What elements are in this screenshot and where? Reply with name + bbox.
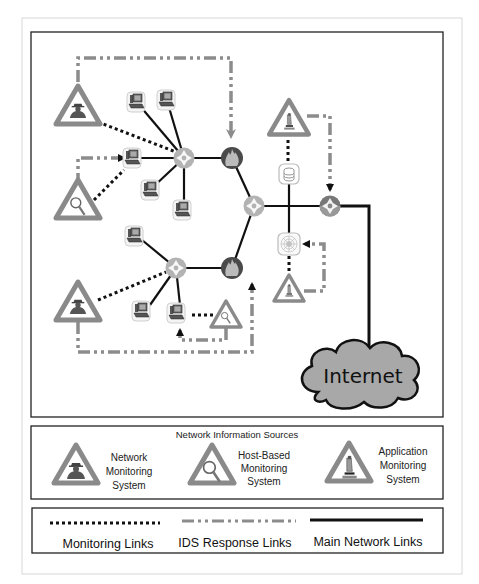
workstation-icon[interactable] (167, 303, 185, 323)
legend-label-ids-response: IDS Response Links (178, 536, 291, 550)
workstation-icon[interactable] (125, 226, 143, 246)
firewall-icon[interactable] (221, 257, 243, 279)
legend-label: Monitoring (380, 460, 427, 471)
internet-label: Internet (323, 364, 403, 388)
workstation-icon[interactable] (173, 200, 191, 220)
legend-label: Monitoring (106, 466, 153, 477)
network-diagram: Internet Network Information Sources Net… (0, 0, 479, 584)
legend-label-monitoring: Monitoring Links (62, 537, 153, 551)
legend-label: System (247, 476, 280, 487)
workstation-icon[interactable] (127, 92, 145, 112)
internet-cloud: Internet (302, 340, 419, 408)
workstation-icon[interactable] (141, 180, 159, 200)
legend-label: System (112, 480, 145, 491)
router-icon[interactable] (166, 258, 187, 279)
legend-label-main-network: Main Network Links (313, 535, 422, 549)
firewall-icon[interactable] (221, 147, 243, 169)
workstation-icon[interactable] (132, 301, 150, 321)
router-icon[interactable] (174, 148, 195, 169)
router-icon[interactable] (244, 196, 265, 217)
legend-label: Monitoring (241, 463, 288, 474)
sources-legend-title: Network Information Sources (176, 429, 299, 440)
workstation-icon[interactable] (157, 90, 175, 110)
legend-label: Application (379, 446, 428, 457)
legend-label: System (386, 474, 419, 485)
database-server-icon[interactable] (279, 164, 299, 184)
legend-label: Network (111, 452, 149, 463)
workstation-icon[interactable] (123, 148, 141, 168)
legend-label: Host-Based (238, 450, 290, 461)
web-server-icon[interactable] (278, 233, 300, 255)
router-icon[interactable] (320, 196, 341, 217)
